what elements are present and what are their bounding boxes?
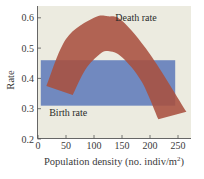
x-axis-title: Population density (no. indiv/m2) <box>44 155 185 168</box>
y-axis-title: Rate <box>5 70 16 90</box>
x-tick-label: 50 <box>61 140 71 151</box>
x-tick-label: 150 <box>115 140 130 151</box>
x-tick-label: 250 <box>171 140 186 151</box>
birth-death-rate-chart: 0.20.30.40.50.6 050100150200250 Rate Pop… <box>0 0 204 179</box>
x-tick-label: 200 <box>143 140 158 151</box>
death-rate-label: Death rate <box>115 12 157 23</box>
y-tick-label: 0.3 <box>22 103 35 114</box>
y-tick-label: 0.6 <box>22 12 35 23</box>
x-tick-label: 0 <box>36 140 41 151</box>
x-tick-label: 100 <box>87 140 102 151</box>
birth-rate-label: Birth rate <box>49 107 88 118</box>
y-tick-label: 0.2 <box>22 134 35 145</box>
y-tick-label: 0.4 <box>22 73 35 84</box>
y-tick-label: 0.5 <box>22 43 35 54</box>
